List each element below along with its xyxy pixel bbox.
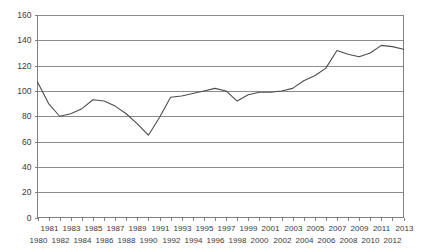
x-tick-label-2011: 2011 bbox=[373, 224, 391, 233]
x-tick-label-1993: 1993 bbox=[174, 224, 192, 233]
line-chart: 020406080100120140160 198019811982198319… bbox=[0, 0, 423, 252]
x-tick-label-1994: 1994 bbox=[185, 236, 203, 245]
x-tick-labels-group: 1980198119821983198419851986198719881989… bbox=[30, 224, 414, 245]
y-tick-label-20: 20 bbox=[22, 187, 32, 197]
x-tick-label-2000: 2000 bbox=[251, 236, 269, 245]
x-tick-label-2008: 2008 bbox=[340, 236, 358, 245]
x-tick-label-1986: 1986 bbox=[96, 236, 114, 245]
x-tick-label-1990: 1990 bbox=[140, 236, 158, 245]
x-tick-label-2013: 2013 bbox=[396, 224, 414, 233]
y-tick-label-40: 40 bbox=[22, 162, 32, 172]
x-tick-label-1998: 1998 bbox=[229, 236, 247, 245]
x-tick-label-2002: 2002 bbox=[274, 236, 292, 245]
x-tick-label-2007: 2007 bbox=[329, 224, 347, 233]
chart-canvas: 020406080100120140160 198019811982198319… bbox=[0, 0, 423, 252]
x-tick-label-2001: 2001 bbox=[262, 224, 280, 233]
x-tick-label-1995: 1995 bbox=[196, 224, 214, 233]
x-tick-label-1984: 1984 bbox=[74, 236, 92, 245]
y-tick-label-80: 80 bbox=[22, 111, 32, 121]
x-tick-label-1991: 1991 bbox=[152, 224, 170, 233]
x-tick-label-1981: 1981 bbox=[41, 224, 59, 233]
y-tick-label-160: 160 bbox=[17, 10, 31, 20]
x-tick-label-1982: 1982 bbox=[52, 236, 70, 245]
y-tick-label-100: 100 bbox=[17, 86, 31, 96]
x-tick-label-1996: 1996 bbox=[207, 236, 225, 245]
x-tick-marks-group bbox=[39, 218, 405, 222]
x-tick-label-1999: 1999 bbox=[240, 224, 258, 233]
x-tick-label-2010: 2010 bbox=[362, 236, 380, 245]
x-tick-label-1997: 1997 bbox=[218, 224, 236, 233]
data-line-1 bbox=[38, 45, 404, 135]
x-tick-label-1989: 1989 bbox=[129, 224, 147, 233]
y-tick-label-140: 140 bbox=[17, 35, 31, 45]
x-tick-label-2005: 2005 bbox=[307, 224, 325, 233]
x-tick-label-1987: 1987 bbox=[107, 224, 125, 233]
x-tick-label-1985: 1985 bbox=[85, 224, 103, 233]
x-tick-label-1988: 1988 bbox=[118, 236, 136, 245]
x-tick-label-2009: 2009 bbox=[351, 224, 369, 233]
y-tick-label-120: 120 bbox=[17, 61, 31, 71]
y-tick-label-60: 60 bbox=[22, 137, 32, 147]
x-tick-label-1992: 1992 bbox=[163, 236, 181, 245]
x-tick-label-2003: 2003 bbox=[285, 224, 303, 233]
x-tick-label-1983: 1983 bbox=[63, 224, 81, 233]
y-tick-label-0: 0 bbox=[27, 213, 32, 223]
x-tick-label-1980: 1980 bbox=[30, 236, 48, 245]
x-tick-label-2006: 2006 bbox=[318, 236, 336, 245]
x-tick-label-2004: 2004 bbox=[296, 236, 314, 245]
data-series-group bbox=[38, 45, 404, 135]
y-tick-labels-group: 020406080100120140160 bbox=[17, 10, 31, 223]
gridlines-group bbox=[38, 16, 404, 193]
x-tick-label-2012: 2012 bbox=[384, 236, 402, 245]
